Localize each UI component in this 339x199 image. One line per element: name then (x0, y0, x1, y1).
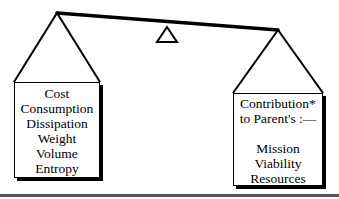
left-hanger (14, 13, 100, 82)
left-pan-item: Entropy (15, 161, 99, 176)
left-pan-box: Cost Consumption Dissipation Weight Volu… (14, 82, 100, 178)
right-pan-item: Resources (234, 171, 322, 186)
right-pan-item: Mission (234, 141, 322, 156)
left-pan-item: Volume (15, 146, 99, 161)
right-pan-heading: Contribution* (234, 96, 322, 111)
right-hanger (233, 30, 323, 93)
right-pan-heading: to Parent's :— (234, 111, 322, 126)
left-pan-item: Weight (15, 131, 99, 146)
right-pan-item: Viability (234, 156, 322, 171)
right-pan-box: Contribution* to Parent's :— Mission Via… (233, 93, 323, 186)
left-pan-item: Consumption (15, 101, 99, 116)
left-pan-item: Cost (15, 86, 99, 101)
left-pan-item: Dissipation (15, 116, 99, 131)
spacer (234, 126, 322, 141)
fulcrum-triangle-icon (157, 27, 177, 42)
bottom-divider (0, 194, 339, 197)
